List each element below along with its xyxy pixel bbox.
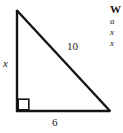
triangle-hypotenuse: [17, 10, 111, 112]
label-hypotenuse: 10: [67, 41, 78, 52]
geometry-figure: x 10 6 W a x x: [0, 0, 123, 133]
adjacent-text-line-2: x: [110, 27, 123, 38]
label-vertical-leg: x: [3, 58, 8, 69]
adjacent-text-heading: W: [110, 3, 123, 16]
right-triangle-drawing: [0, 0, 123, 133]
adjacent-text-line-3: x: [110, 38, 123, 49]
label-base: 6: [52, 117, 58, 128]
adjacent-text-block: W a x x: [110, 3, 123, 49]
adjacent-text-line-1: a: [110, 16, 123, 27]
right-angle-marker: [18, 99, 29, 110]
